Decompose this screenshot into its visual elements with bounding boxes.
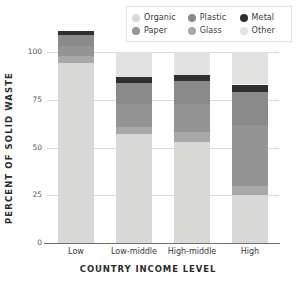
bar-segment-metal[interactable]	[116, 77, 152, 83]
bar-segment-other[interactable]	[174, 52, 210, 75]
legend-label-glass: Glass	[200, 26, 222, 35]
legend-item-other[interactable]: Other	[240, 26, 286, 35]
bar-segment-other[interactable]	[232, 52, 268, 84]
metal-swatch-icon	[240, 14, 248, 22]
bar-segment-plastic[interactable]	[174, 81, 210, 104]
legend-item-metal[interactable]: Metal	[240, 13, 286, 22]
organic-swatch-icon	[132, 14, 140, 22]
bar-segment-plastic[interactable]	[58, 35, 94, 46]
bar-segment-organic[interactable]	[116, 134, 152, 243]
gridline-0	[47, 243, 279, 244]
bar-high[interactable]	[232, 52, 268, 243]
y-tick-label-0: 0	[37, 239, 42, 247]
y-tick-label-50: 50	[32, 144, 42, 152]
y-axis-title-text: PERCENT OF SOLID WASTE	[4, 72, 14, 224]
x-axis-title: COUNTRY INCOME LEVEL	[0, 264, 296, 274]
bar-high-middle[interactable]	[174, 52, 210, 243]
y-tick-label-75: 75	[32, 96, 42, 104]
stacked-bar-chart: Organic Plastic Metal Paper Glass O	[0, 0, 296, 282]
legend-label-other: Other	[252, 26, 275, 35]
legend-item-glass[interactable]: Glass	[188, 26, 240, 35]
legend-label-plastic: Plastic	[200, 13, 227, 22]
other-swatch-icon	[240, 27, 248, 35]
bar-segment-metal[interactable]	[58, 31, 94, 35]
bar-segment-organic[interactable]	[174, 142, 210, 243]
bar-segment-metal[interactable]	[174, 75, 210, 81]
x-tick-label-high: High	[205, 247, 295, 256]
legend-label-paper: Paper	[144, 26, 167, 35]
bar-segment-glass[interactable]	[58, 56, 94, 64]
legend-item-plastic[interactable]: Plastic	[188, 13, 240, 22]
legend-item-organic[interactable]: Organic	[132, 13, 188, 22]
paper-swatch-icon	[132, 27, 140, 35]
bar-low[interactable]	[58, 52, 94, 243]
bar-low-middle[interactable]	[116, 52, 152, 243]
y-axis-title: PERCENT OF SOLID WASTE	[2, 52, 16, 243]
bar-segment-plastic[interactable]	[232, 92, 268, 124]
bar-segment-organic[interactable]	[232, 195, 268, 243]
bar-segment-other[interactable]	[116, 52, 152, 77]
y-tick-label-25: 25	[32, 192, 42, 200]
y-tick-label-100: 100	[28, 48, 42, 56]
bar-segment-plastic[interactable]	[116, 83, 152, 104]
legend-row-1: Organic Plastic Metal	[132, 11, 286, 24]
glass-swatch-icon	[188, 27, 196, 35]
legend-label-metal: Metal	[252, 13, 275, 22]
bar-segment-metal[interactable]	[232, 85, 268, 93]
bar-segment-paper[interactable]	[116, 104, 152, 127]
bar-segment-organic[interactable]	[58, 63, 94, 243]
legend-row-2: Paper Glass Other	[132, 24, 286, 37]
bar-segment-paper[interactable]	[58, 46, 94, 56]
chart-legend: Organic Plastic Metal Paper Glass O	[126, 6, 292, 42]
legend-item-paper[interactable]: Paper	[132, 26, 188, 35]
plot-area: 0255075100	[47, 52, 279, 243]
bar-segment-glass[interactable]	[174, 132, 210, 142]
bar-segment-glass[interactable]	[232, 186, 268, 196]
bar-segment-paper[interactable]	[174, 104, 210, 133]
bar-segment-glass[interactable]	[116, 127, 152, 135]
bar-segment-paper[interactable]	[232, 125, 268, 186]
legend-label-organic: Organic	[144, 13, 176, 22]
plastic-swatch-icon	[188, 14, 196, 22]
